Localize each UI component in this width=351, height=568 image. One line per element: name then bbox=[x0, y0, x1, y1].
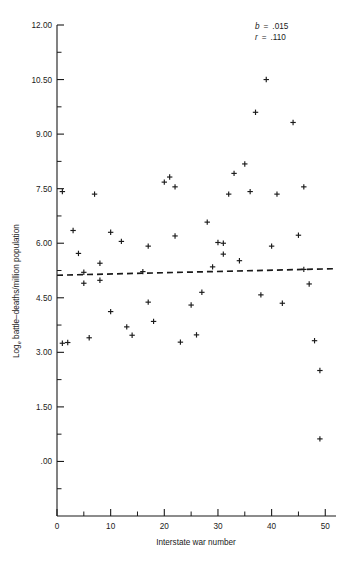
data-point bbox=[129, 333, 134, 338]
data-point bbox=[237, 258, 242, 263]
data-point bbox=[205, 219, 210, 224]
data-points-group bbox=[60, 77, 323, 442]
plot-canvas: .001.503.004.506.007.509.0010.5012.00 01… bbox=[0, 0, 351, 568]
data-point bbox=[97, 261, 102, 266]
x-axis-tick-labels: 01020304050 bbox=[55, 522, 331, 531]
data-point bbox=[119, 239, 124, 244]
data-point bbox=[306, 281, 311, 286]
regression-line-group bbox=[57, 269, 336, 276]
data-point bbox=[247, 189, 252, 194]
y-tick-label: 9.00 bbox=[36, 130, 52, 139]
data-point bbox=[70, 228, 75, 233]
data-point bbox=[92, 191, 97, 196]
scatter-plot-figure: .001.503.004.506.007.509.0010.5012.00 01… bbox=[0, 0, 351, 568]
x-tick-label: 10 bbox=[106, 522, 116, 531]
data-point bbox=[60, 189, 65, 194]
data-point bbox=[253, 110, 258, 115]
data-point bbox=[290, 120, 295, 125]
data-point bbox=[167, 174, 172, 179]
data-point bbox=[215, 240, 220, 245]
x-tick-label: 30 bbox=[213, 522, 223, 531]
data-point bbox=[296, 233, 301, 238]
data-point bbox=[60, 341, 65, 346]
data-point bbox=[221, 241, 226, 246]
data-point bbox=[269, 243, 274, 248]
y-tick-label: 4.50 bbox=[36, 294, 52, 303]
y-axis-title-main: Log bbox=[12, 344, 21, 358]
y-tick-label: 6.00 bbox=[36, 239, 52, 248]
data-point bbox=[280, 301, 285, 306]
annotation-r-equals: = bbox=[262, 33, 267, 42]
x-axis-ticks bbox=[57, 509, 325, 516]
data-point bbox=[231, 171, 236, 176]
y-tick-label: 7.50 bbox=[36, 185, 52, 194]
data-point bbox=[188, 302, 193, 307]
annotation-r-value: .110 bbox=[271, 33, 287, 42]
y-tick-label: .00 bbox=[41, 457, 53, 466]
x-tick-label: 50 bbox=[321, 522, 331, 531]
data-point bbox=[258, 292, 263, 297]
data-point bbox=[178, 339, 183, 344]
data-point bbox=[199, 290, 204, 295]
y-axis-title-rest: battle–deaths/million population bbox=[12, 224, 21, 341]
annotation-r-row: r=.110 bbox=[255, 33, 286, 42]
x-axis-title: Interstate war number bbox=[156, 538, 236, 547]
y-axis-tick-labels: .001.503.004.506.007.509.0010.5012.00 bbox=[32, 21, 53, 466]
data-point bbox=[108, 230, 113, 235]
data-point bbox=[86, 335, 91, 340]
annotation-b-value: .015 bbox=[272, 22, 288, 31]
svg-text:Loge battle–deaths/million pop: Loge battle–deaths/million population bbox=[12, 224, 22, 358]
data-point bbox=[242, 161, 247, 166]
data-point bbox=[264, 77, 269, 82]
data-point bbox=[221, 251, 226, 256]
y-tick-label: 3.00 bbox=[36, 348, 52, 357]
annotation-b-symbol: b bbox=[255, 22, 260, 31]
data-point bbox=[76, 251, 81, 256]
regression-line bbox=[57, 269, 336, 276]
data-point bbox=[81, 281, 86, 286]
data-point bbox=[162, 179, 167, 184]
annotation-b-equals: = bbox=[264, 22, 269, 31]
annotation-b-row: b=.015 bbox=[255, 22, 289, 31]
x-tick-label: 0 bbox=[55, 522, 60, 531]
data-point bbox=[124, 324, 129, 329]
data-point bbox=[210, 264, 215, 269]
data-point bbox=[194, 332, 199, 337]
axes-group bbox=[57, 25, 336, 516]
data-point bbox=[226, 191, 231, 196]
x-tick-label: 20 bbox=[160, 522, 170, 531]
data-point bbox=[274, 191, 279, 196]
data-point bbox=[317, 436, 322, 441]
data-point bbox=[301, 267, 306, 272]
annotation-r-symbol: r bbox=[255, 33, 258, 42]
y-tick-label: 10.50 bbox=[32, 76, 53, 85]
data-point bbox=[97, 278, 102, 283]
data-point bbox=[172, 233, 177, 238]
y-tick-label: 12.00 bbox=[32, 21, 53, 30]
data-point bbox=[312, 338, 317, 343]
y-axis-title: Loge battle–deaths/million population bbox=[12, 224, 22, 358]
x-tick-label: 40 bbox=[267, 522, 277, 531]
data-point bbox=[146, 299, 151, 304]
y-tick-label: 1.50 bbox=[36, 403, 52, 412]
data-point bbox=[317, 368, 322, 373]
data-point bbox=[172, 184, 177, 189]
data-point bbox=[108, 309, 113, 314]
data-point bbox=[151, 319, 156, 324]
statistics-annotation: b=.015 r=.110 bbox=[255, 22, 289, 42]
data-point bbox=[65, 340, 70, 345]
y-axis-ticks bbox=[57, 25, 64, 489]
data-point bbox=[146, 243, 151, 248]
data-point bbox=[301, 184, 306, 189]
